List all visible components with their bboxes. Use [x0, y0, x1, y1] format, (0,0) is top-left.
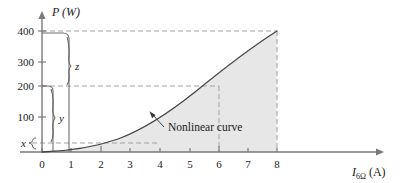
brace-label-y: y	[58, 112, 64, 124]
x-tick-label-5: 5	[187, 158, 193, 170]
nonlinear-curve-annotation: Nonlinear curve	[168, 121, 242, 133]
brace-label-x: x	[20, 137, 26, 149]
x-tick-label-6: 6	[216, 158, 222, 170]
x-tick-label-0: 0	[39, 158, 45, 170]
brace-z	[67, 37, 71, 85]
y-tick-label-400: 400	[18, 25, 35, 37]
figure-power-vs-current: 400 300 200 100 0 1 2 3 4 5 6 7 8 P (W) …	[0, 0, 406, 183]
x-tick-label-7: 7	[245, 158, 251, 170]
x-axis-label-sub: 6Ω	[356, 172, 366, 181]
solid-connector-top	[42, 33, 69, 152]
y-axis-label-text: P (W)	[51, 5, 80, 19]
x-axis-label: I6Ω(A)	[351, 165, 386, 181]
y-tick-label-100: 100	[18, 111, 35, 123]
x-tick-label-8: 8	[274, 158, 280, 170]
x-tick-label-2: 2	[98, 158, 104, 170]
brace-label-z: z	[74, 60, 80, 72]
shaded-region-under-curve	[42, 31, 277, 152]
y-tick-label-200: 200	[18, 80, 35, 92]
y-tick-label-300: 300	[18, 56, 35, 68]
y-axis-label: P (W)	[51, 5, 80, 19]
x-tick-label-1: 1	[68, 158, 74, 170]
x-axis-label-unit: (A)	[369, 165, 386, 179]
y-axis-arrow	[38, 11, 45, 19]
chart-svg: 400 300 200 100 0 1 2 3 4 5 6 7 8 P (W) …	[0, 0, 406, 183]
x-tick-label-4: 4	[157, 158, 163, 170]
x-tick-label-3: 3	[127, 158, 133, 170]
x-axis-arrow	[376, 148, 384, 155]
